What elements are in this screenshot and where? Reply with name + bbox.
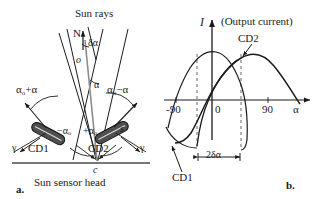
chart-y-axis-symbol: I bbox=[200, 16, 204, 28]
delta-alpha-label: δα bbox=[88, 38, 98, 48]
alpha0-inner-left-label: −αo bbox=[57, 126, 71, 137]
cd2-gamma-arrow bbox=[121, 137, 140, 152]
detector-cd2-label: CD2 bbox=[88, 143, 109, 154]
chart-tick-label-minus90: -90 bbox=[166, 104, 181, 115]
chart-tick-label-zero: 0 bbox=[215, 104, 221, 115]
chart-offset-label: 2δα bbox=[206, 150, 221, 160]
origin-point-label: o bbox=[76, 55, 81, 65]
chart-curve-cd1-label: CD1 bbox=[172, 172, 193, 183]
north-label: N bbox=[73, 28, 81, 39]
chart-curve-cd2-label: CD2 bbox=[238, 33, 259, 44]
detector-cd1-label: CD1 bbox=[28, 143, 49, 154]
figure-vector-layer bbox=[0, 0, 322, 199]
alpha0-plus-alpha-tail: +α bbox=[25, 83, 37, 95]
alpha0-inner-right-subscript: o bbox=[94, 129, 97, 136]
figure-sun-sensor: Sun rays N δα o α αo+α αo−α −αo +αo CD1 … bbox=[0, 0, 322, 199]
alpha0-minus-alpha-tail: −α bbox=[116, 83, 128, 95]
sun-rays-label: Sun rays bbox=[75, 8, 113, 19]
chart-x-axis-symbol: α bbox=[293, 104, 299, 115]
cd1-annotation-leader bbox=[172, 146, 182, 172]
cd2-normal-s-label: s bbox=[120, 124, 124, 134]
alpha0-inner-right-label: +αo bbox=[83, 126, 97, 137]
panel-b-label: b. bbox=[286, 180, 295, 191]
panel-b-graphics bbox=[164, 20, 310, 172]
curve-cd2 bbox=[175, 54, 300, 143]
panel-a-label: a. bbox=[16, 184, 24, 195]
alpha-angle-label: α bbox=[94, 80, 99, 90]
chart-tick-label-plus90: 90 bbox=[262, 104, 273, 115]
center-point-label: c bbox=[93, 165, 97, 175]
alpha0-inner-left-subscript: o bbox=[68, 129, 71, 136]
alpha0-plus-alpha-label: αo+α bbox=[16, 84, 37, 96]
panel-a-caption: Sun sensor head bbox=[34, 177, 106, 188]
alpha0-minus-alpha-label: αo−α bbox=[107, 84, 128, 96]
chart-y-axis-caption: (Output current) bbox=[221, 16, 293, 27]
alpha0-plus-alpha-arc bbox=[30, 96, 58, 110]
alpha0-inner-left-symbol: −α bbox=[57, 125, 68, 136]
gamma-left-label: γ bbox=[12, 143, 16, 153]
alpha0-inner-right-symbol: +α bbox=[83, 125, 94, 136]
gamma-right-label: γ bbox=[140, 143, 144, 153]
